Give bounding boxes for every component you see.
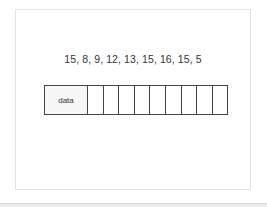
array-cell xyxy=(134,86,150,114)
array-cell xyxy=(196,86,212,114)
array-cell xyxy=(165,86,181,114)
bottom-divider xyxy=(0,203,267,207)
array-cell xyxy=(103,86,119,114)
array-cell xyxy=(87,86,103,114)
sequence-text: 15, 8, 9, 12, 13, 15, 16, 15, 5 xyxy=(16,53,250,65)
diagram-frame: 15, 8, 9, 12, 13, 15, 16, 15, 5 data xyxy=(15,9,251,190)
array-cell xyxy=(181,86,197,114)
array-cell xyxy=(149,86,165,114)
array-cell xyxy=(212,86,228,114)
array-cell xyxy=(118,86,134,114)
array-label-cell: data xyxy=(45,86,87,114)
array-diagram: data xyxy=(44,85,228,115)
